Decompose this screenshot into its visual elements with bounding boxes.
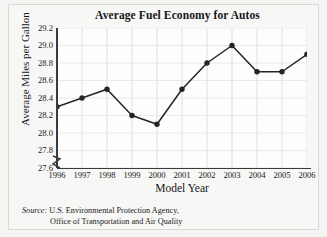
plot-area — [57, 28, 307, 168]
data-point — [279, 69, 284, 74]
data-point — [104, 87, 109, 92]
data-point — [129, 113, 134, 118]
x-axis-line — [57, 168, 311, 170]
series-line — [57, 46, 307, 125]
chart-title: Average Fuel Economy for Autos — [40, 9, 315, 21]
x-tick-label: 2006 — [291, 171, 323, 180]
x-axis-title: Model Year — [57, 182, 307, 194]
data-point — [229, 43, 234, 48]
source-label: Source: — [22, 206, 47, 215]
source-note: Source: U.S. Environmental Protection Ag… — [22, 205, 312, 227]
data-point — [179, 87, 184, 92]
source-line-1: U.S. Environmental Protection Agency, — [49, 206, 179, 215]
data-point — [79, 95, 84, 100]
figure-container: Average Fuel Economy for Autos 29.229.02… — [0, 0, 327, 237]
data-point — [254, 69, 259, 74]
data-point — [154, 122, 159, 127]
y-tick-label: 27.8 — [27, 146, 53, 155]
data-series-fuel-economy — [57, 28, 307, 168]
data-point — [204, 60, 209, 65]
y-axis-line — [56, 28, 58, 168]
y-axis-title: Average Miles per Gallon — [19, 0, 31, 143]
source-line-2: Office of Transportation and Air Quality — [22, 216, 312, 227]
